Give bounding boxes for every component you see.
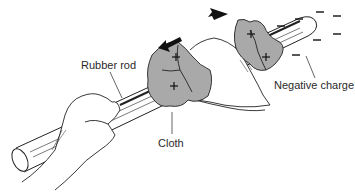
- label-negative-charge: Negative charge: [274, 80, 354, 91]
- diagram-illustration: [0, 0, 355, 193]
- arrow-right-icon: [208, 8, 228, 20]
- label-cloth: Cloth: [158, 138, 184, 149]
- diagram-canvas: Rubber rod Cloth Negative charge: [0, 0, 355, 193]
- label-rubber-rod: Rubber rod: [81, 60, 136, 71]
